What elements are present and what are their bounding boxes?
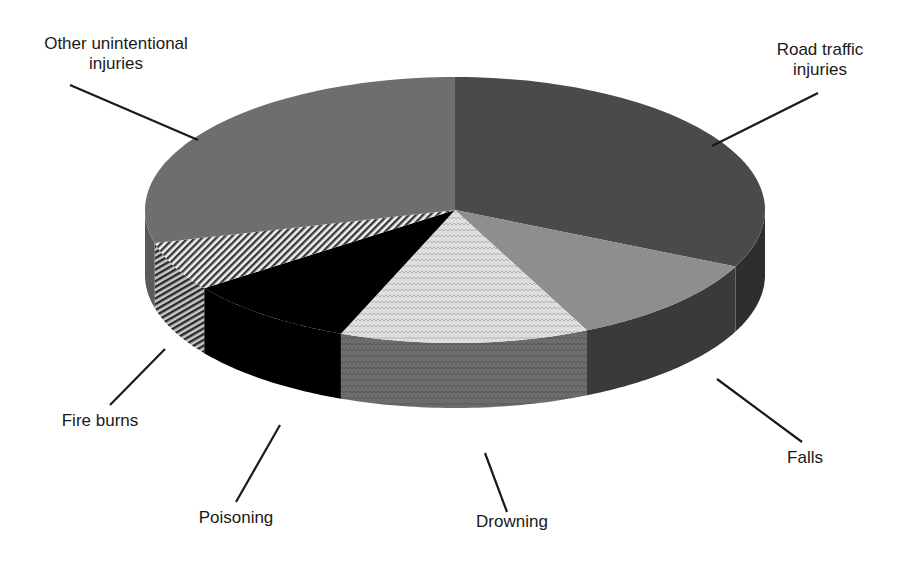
- label-other-line2: injuries: [26, 54, 206, 74]
- leader-line-other: [70, 85, 198, 140]
- leader-line-drowning: [485, 453, 507, 512]
- leader-line-fire: [110, 349, 165, 405]
- label-poisoning: Poisoning: [186, 508, 286, 528]
- label-road-line2: injuries: [760, 60, 880, 80]
- leader-line-road: [712, 93, 818, 146]
- leader-line-falls: [717, 379, 802, 442]
- pie-slices: [145, 77, 765, 408]
- leader-line-poisoning: [236, 425, 280, 502]
- label-road-traffic-injuries: Road traffic injuries: [760, 40, 880, 80]
- label-other-unintentional-injuries: Other unintentional injuries: [26, 34, 206, 74]
- label-fire-burns: Fire burns: [40, 411, 160, 431]
- label-drowning: Drowning: [462, 512, 562, 532]
- label-road-line1: Road traffic: [760, 40, 880, 60]
- label-falls: Falls: [775, 448, 835, 468]
- label-other-line1: Other unintentional: [26, 34, 206, 54]
- pie-chart-3d: [0, 0, 898, 563]
